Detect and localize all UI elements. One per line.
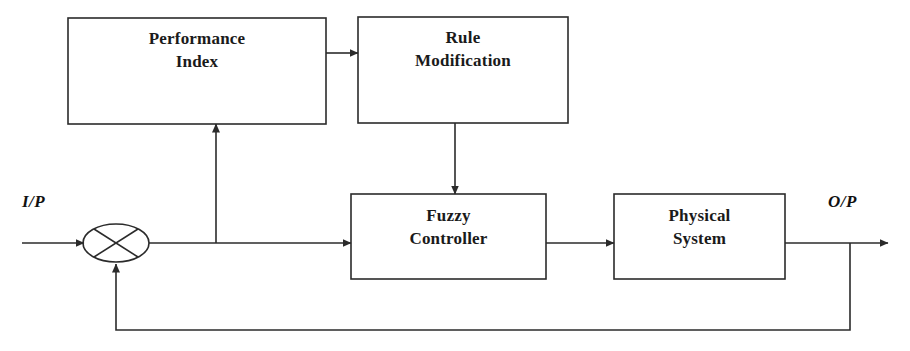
block-fuzzy-controller [351, 194, 546, 279]
block-performance-index [68, 18, 326, 124]
label-output: O/P [828, 192, 857, 212]
block-rule-modification [358, 17, 568, 123]
block-physical-system [614, 194, 785, 279]
summing-junction [83, 224, 149, 262]
block-diagram: Performance Index Rule Modification Fuzz… [0, 0, 910, 351]
label-input: I/P [22, 192, 45, 212]
diagram-canvas [0, 0, 910, 351]
